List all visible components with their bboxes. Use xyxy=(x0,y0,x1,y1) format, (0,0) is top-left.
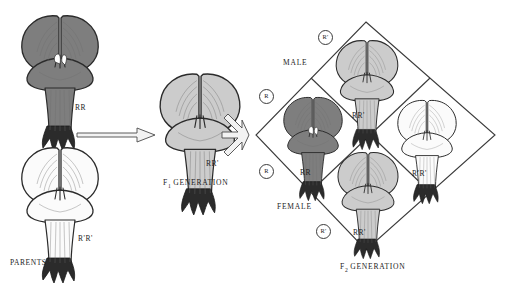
axis-label-male: MALE xyxy=(283,59,307,67)
f1-genotype-label: RR' xyxy=(206,160,219,168)
f2-section-label-rest: GENERATION xyxy=(348,262,406,271)
parent-white-genotype-label: R'R' xyxy=(78,235,93,243)
f2-cell-top-genotype: RR' xyxy=(352,112,365,120)
f2-section-label: F2 GENERATION xyxy=(340,263,405,273)
f1-section-label-rest: GENERATION xyxy=(171,178,229,187)
parents-section-label: PARENTS xyxy=(10,259,47,267)
parent-red-genotype-label: RR xyxy=(75,104,86,112)
f2-cell-bottom-genotype: RR' xyxy=(353,229,366,237)
cross-arrow-icon xyxy=(76,124,158,146)
f2-cell-bottom-flower xyxy=(332,148,404,261)
f2-cell-left-genotype: RR xyxy=(300,169,311,177)
gamete-female-bottom-circle: R' xyxy=(316,224,331,239)
axis-label-female: FEMALE xyxy=(277,203,312,211)
f1-section-label: F1 GENERATION xyxy=(163,179,228,189)
f2-cell-right-genotype: R'R' xyxy=(412,170,427,178)
gamete-female-left-circle: R xyxy=(259,164,274,179)
pink-flower-graphic xyxy=(332,148,404,261)
gamete-male-left-circle: R xyxy=(259,89,274,104)
